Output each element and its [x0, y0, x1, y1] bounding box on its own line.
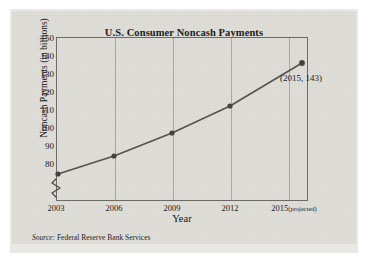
data-point-annotation: (2015, 143): [280, 73, 322, 83]
data-point-2012: [227, 103, 232, 108]
source-note: Source: Federal Reserve Bank Services: [32, 233, 150, 242]
data-point-2015: [299, 60, 305, 66]
source-text: Federal Reserve Bank Services: [57, 233, 151, 242]
source-label: Source:: [32, 233, 55, 242]
series-line: [58, 63, 302, 174]
figure-container: U.S. Consumer Noncash Payments 150 140 1…: [0, 0, 368, 261]
data-point-2009: [169, 130, 174, 135]
data-point-2003: [55, 171, 60, 176]
axis-break-zigzag: [52, 179, 60, 197]
chart-card: U.S. Consumer Noncash Payments 150 140 1…: [12, 11, 356, 244]
data-point-2006: [111, 153, 116, 158]
data-series-layer: [12, 11, 356, 244]
